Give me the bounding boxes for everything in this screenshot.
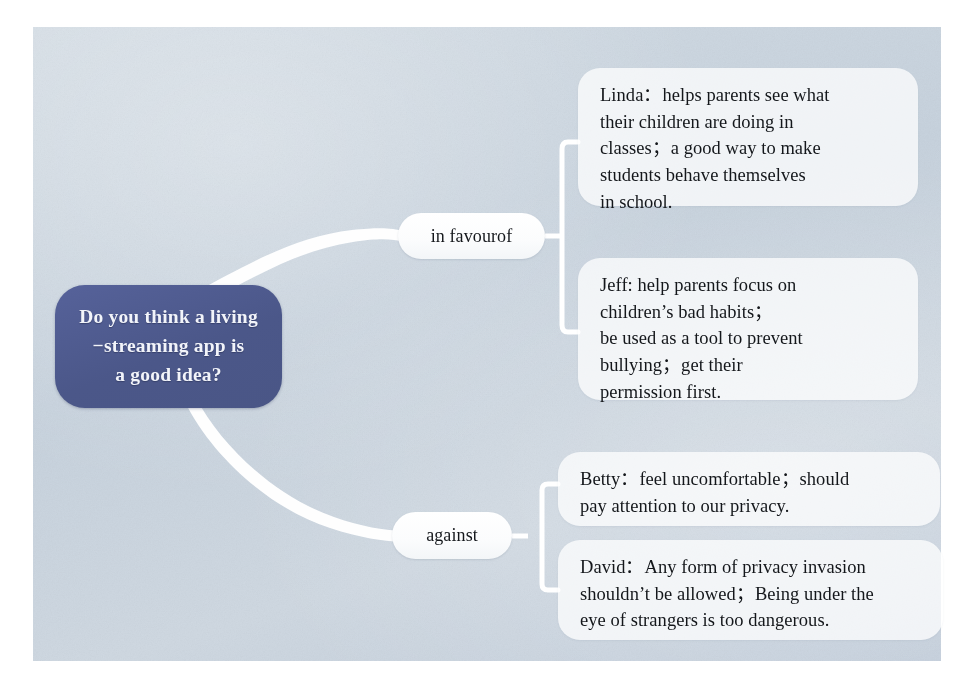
note-jeff-line-4: bullying；get their [600,355,743,375]
branch-label-in-favour-of-text: in favourof [431,226,513,247]
note-david-line-2: shouldn’t be allowed；Being under the [580,584,874,604]
note-linda-line-5: in school. [600,192,672,212]
bleedthrough-text [213,217,218,233]
root-line-2: −streaming app is [93,335,245,356]
bleedthrough-text [433,122,438,138]
bleedthrough-text [383,457,388,473]
note-jeff-line-2: children’s bad habits； [600,302,773,322]
note-linda-line-3: classes；a good way to make [600,138,821,158]
note-betty-line-1: Betty：feel uncomfortable；should [580,469,849,489]
note-jeff-text: Jeff: help parents focus on children’s b… [600,272,900,405]
root-node-label: Do you think a living −streaming app is … [69,303,268,390]
branch-label-against[interactable]: against [392,512,512,559]
note-david-text: David：Any form of privacy invasion shoul… [580,554,925,634]
note-jeff[interactable]: Jeff: help parents focus on children’s b… [578,258,918,400]
note-jeff-line-5: permission first. [600,382,721,402]
bleedthrough-text [153,87,158,103]
note-david-line-3: eye of strangers is too dangerous. [580,610,829,630]
note-linda-line-1: Linda：helps parents see what [600,85,829,105]
note-linda-text: Linda：helps parents see what their child… [600,82,900,215]
branch-label-in-favour-of[interactable]: in favourof [398,213,545,259]
note-linda[interactable]: Linda：helps parents see what their child… [578,68,918,206]
note-david[interactable]: David：Any form of privacy invasion shoul… [558,540,943,640]
note-david-line-1: David：Any form of privacy invasion [580,557,866,577]
root-line-3: a good idea? [115,364,221,385]
note-jeff-line-3: be used as a tool to prevent [600,328,803,348]
note-linda-line-4: students behave themselves [600,165,806,185]
note-jeff-line-1: Jeff: help parents focus on [600,275,796,295]
bleedthrough-text [363,49,368,65]
branch-label-against-text: against [426,525,478,546]
mindmap-page: Do you think a living −streaming app is … [0,0,973,700]
root-line-1: Do you think a living [79,306,258,327]
note-betty[interactable]: Betty：feel uncomfortable；should pay atte… [558,452,940,526]
note-linda-line-2: their children are doing in [600,112,793,132]
note-betty-line-2: pay attention to our privacy. [580,496,789,516]
note-betty-text: Betty：feel uncomfortable；should pay atte… [580,466,922,519]
root-node[interactable]: Do you think a living −streaming app is … [55,285,282,408]
